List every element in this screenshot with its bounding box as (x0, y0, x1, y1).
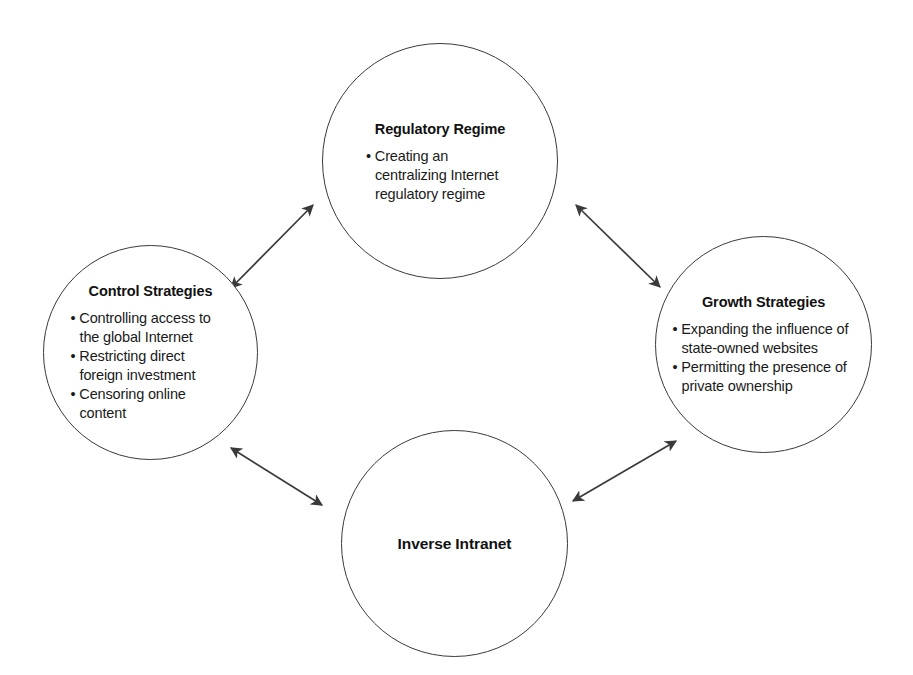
connector-control-to-inverse[interactable] (231, 448, 322, 505)
node-regulatory-regime[interactable]: Regulatory Regime Creating an centralizi… (322, 43, 558, 279)
bullet-item: Expanding the influence of state-owned w… (673, 320, 855, 358)
connector-inverse-to-growth[interactable] (573, 441, 676, 501)
connector-regulatory-to-growth[interactable] (576, 205, 660, 287)
node-title: Growth Strategies (662, 293, 865, 311)
node-bullet-list: Creating an centralizing Internet regula… (366, 147, 514, 204)
bullet-item: Controlling access to the global Interne… (71, 309, 231, 347)
diagram-canvas: Regulatory Regime Creating an centralizi… (0, 0, 913, 675)
node-control-strategies[interactable]: Control Strategies Controlling access to… (43, 245, 258, 460)
node-content: Regulatory Regime Creating an centralizi… (323, 118, 557, 205)
node-content: Control Strategies Controlling access to… (44, 282, 257, 424)
node-content: Growth Strategies Expanding the influenc… (656, 293, 871, 397)
node-inverse-intranet[interactable]: Inverse Intranet (341, 430, 568, 657)
node-bullet-list: Expanding the influence of state-owned w… (673, 320, 855, 397)
node-title: Regulatory Regime (329, 120, 551, 138)
bullet-item: Creating an centralizing Internet regula… (366, 147, 514, 204)
node-content: Inverse Intranet (342, 534, 567, 553)
bullet-item: Restricting direct foreign investment (71, 347, 231, 385)
bullet-item: Permitting the presence of private owner… (673, 358, 855, 396)
node-title: Control Strategies (50, 282, 251, 300)
node-growth-strategies[interactable]: Growth Strategies Expanding the influenc… (655, 236, 872, 453)
node-bullet-list: Controlling access to the global Interne… (71, 309, 231, 424)
node-title: Inverse Intranet (348, 534, 561, 553)
bullet-item: Censoring online content (71, 385, 231, 423)
connector-control-to-regulatory[interactable] (231, 205, 313, 288)
